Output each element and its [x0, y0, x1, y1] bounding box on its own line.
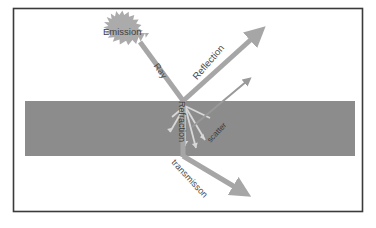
diagram-canvas: Emission Ray Reflection Refraction scatt… — [0, 0, 376, 228]
light-interaction-diagram — [0, 0, 376, 228]
